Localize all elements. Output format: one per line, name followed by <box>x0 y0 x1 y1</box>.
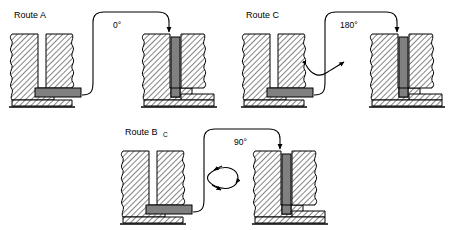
panel-label-route-bc-subscript: C <box>163 131 168 138</box>
panel-label-route-a: Route A <box>14 10 46 20</box>
panel-label-route-bc: Route B <box>125 127 158 137</box>
process-route-diagram: Route A 0° Route C 180° Route B C <box>0 0 457 230</box>
angle-label-route-bc: 90° <box>234 137 247 147</box>
angle-label-route-a: 0° <box>113 20 121 30</box>
angle-label-route-c: 180° <box>340 20 358 30</box>
panel-label-route-c: Route C <box>246 10 280 20</box>
